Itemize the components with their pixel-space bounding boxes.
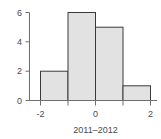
bar-series — [41, 13, 151, 101]
y-tick-label-0: 0 — [17, 96, 22, 106]
bar-bin-4 — [123, 86, 151, 101]
y-axis: 0 2 4 6 — [17, 8, 30, 106]
x-axis-title: 2011–2012 — [73, 125, 117, 135]
x-tick-label-2: 2 — [148, 109, 153, 119]
histogram-chart: 0 2 4 6 -2 0 2 — [0, 0, 161, 139]
x-tick-label-neg2: -2 — [36, 109, 44, 119]
y-tick-label-4: 4 — [17, 37, 22, 47]
bar-bin-3 — [96, 27, 124, 100]
bar-bin-1 — [41, 71, 69, 100]
y-tick-label-6: 6 — [17, 8, 22, 18]
x-axis: -2 0 2 — [30, 101, 158, 120]
y-tick-label-2: 2 — [17, 66, 22, 76]
x-tick-label-0: 0 — [93, 109, 98, 119]
chart-canvas: 0 2 4 6 -2 0 2 — [0, 0, 161, 139]
bar-bin-2 — [68, 13, 96, 101]
